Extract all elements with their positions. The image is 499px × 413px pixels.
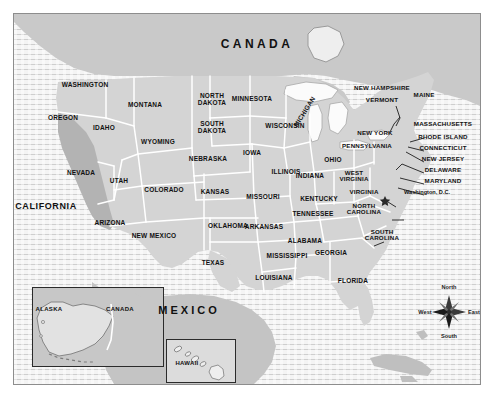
compass-rose: North South East West (418, 282, 480, 340)
state-label-ohio: OHIO (324, 157, 341, 164)
state-label-kansas: KANSAS (201, 189, 230, 196)
state-label-idaho: IDAHO (93, 125, 115, 132)
state-label-washington: WASHINGTON (62, 82, 109, 89)
state-label-pennsylvania: PENNSYLVANIA (342, 143, 392, 149)
inset-label-canada: CANADA (106, 306, 134, 312)
state-label-missouri: MISSOURI (246, 194, 280, 201)
compass-label-east: East (468, 309, 480, 315)
state-label-texas: TEXAS (202, 260, 225, 267)
state-label-virginia: VIRGINIA (349, 189, 378, 195)
compass-label-west: West (418, 309, 431, 315)
map-page: North South East West ALASKA CANADA (0, 0, 499, 413)
state-label-tennessee: TENNESSEE (292, 211, 333, 218)
compass-label-south: South (441, 333, 457, 339)
cuba-land (370, 354, 432, 376)
state-label-new-hampshire: NEW HAMPSHIRE (354, 85, 410, 91)
state-label-delaware: DELAWARE (425, 167, 462, 173)
state-label-west-virginia: WEST VIRGINIA (339, 170, 368, 183)
state-label-oklahoma: OKLAHOMA (208, 223, 248, 230)
state-label-maine: MAINE (414, 92, 435, 98)
state-label-connecticut: CONNECTICUT (419, 145, 466, 151)
state-label-california: CALIFORNIA (15, 202, 77, 211)
state-label-new-mexico: NEW MEXICO (132, 233, 177, 240)
state-label-alabama: ALABAMA (288, 238, 322, 245)
caribbean-island (400, 376, 418, 382)
state-label-new-york: NEW YORK (357, 130, 393, 136)
inset-label-alaska: ALASKA (36, 306, 63, 312)
state-label-colorado: COLORADO (144, 187, 184, 194)
state-label-oregon: OREGON (48, 115, 78, 122)
state-label-kentucky: KENTUCKY (300, 196, 338, 203)
state-label-maryland: MARYLAND (425, 178, 462, 184)
state-label-wyoming: WYOMING (141, 139, 175, 146)
state-label-north-carolina: NORTH CAROLINA (347, 203, 381, 216)
state-label-utah: UTAH (110, 178, 128, 185)
state-label-nevada: NEVADA (67, 170, 95, 177)
state-label-arizona: ARIZONA (94, 220, 125, 227)
alaska-inset-svg (33, 288, 163, 366)
state-label-nebraska: NEBRASKA (189, 156, 227, 163)
state-label-rhode-island: RHODE ISLAND (418, 134, 468, 140)
state-label-indiana: INDIANA (296, 173, 324, 180)
state-label-new-jersey: NEW JERSEY (422, 156, 465, 162)
state-label-mississippi: MISSISSIPPI (267, 253, 308, 260)
alaska-inset (32, 287, 164, 367)
state-label-florida: FLORIDA (338, 278, 368, 285)
state-label-minnesota: MINNESOTA (232, 96, 272, 103)
compass-label-north: North (442, 284, 457, 290)
state-label-south-dakota: SOUTH DAKOTA (198, 121, 227, 134)
state-label-georgia: GEORGIA (315, 250, 347, 257)
state-label-arkansas: ARKANSAS (245, 224, 283, 231)
capital-label-washington-dc: Washington, D.C. (404, 190, 450, 196)
state-label-louisiana: LOUISIANA (255, 275, 293, 282)
country-label-mexico: MEXICO (158, 305, 219, 316)
country-label-canada: CANADA (221, 38, 293, 50)
state-label-iowa: IOWA (243, 150, 261, 157)
state-label-north-dakota: NORTH DAKOTA (198, 93, 227, 106)
state-label-montana: MONTANA (128, 102, 162, 109)
florida-land (354, 280, 374, 326)
state-label-south-carolina: SOUTH CAROLINA (365, 229, 399, 242)
state-label-vermont: VERMONT (366, 97, 398, 103)
inset-label-hawaii: HAWAII (175, 360, 198, 366)
state-label-massachusetts: MASSACHUSETTS (414, 121, 472, 127)
